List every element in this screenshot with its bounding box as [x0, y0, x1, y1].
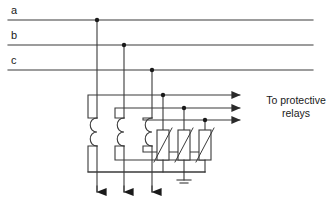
earth-ground-icon	[177, 172, 191, 183]
ct-phase-c-coil	[145, 118, 152, 146]
annotation-line-1: To protective	[253, 94, 330, 107]
node-secondary-a	[161, 93, 165, 97]
to-protective-relays-label: To protective relays	[253, 94, 330, 120]
phase-bus-group	[8, 20, 313, 70]
secondary-lead-a-path	[88, 95, 240, 118]
ct-phase-b-coil	[117, 118, 124, 146]
phase-label-b: b	[11, 30, 17, 41]
current-transformer-group	[90, 118, 152, 146]
annotation-line-2: relays	[253, 107, 330, 120]
burden-tap-group	[163, 95, 205, 130]
node-secondary-c	[203, 118, 207, 122]
node-a-bus	[95, 18, 99, 22]
secondary-lead-b-path	[115, 108, 240, 118]
node-c-bus	[150, 68, 154, 72]
ct-phase-a-coil	[90, 118, 97, 146]
ct-secondary-top-leads	[88, 95, 240, 120]
burden-resistor-c	[196, 128, 214, 172]
node-secondary-b	[182, 106, 186, 110]
node-b-bus	[122, 43, 126, 47]
phase-label-c: c	[11, 55, 17, 66]
burden-resistor-a	[154, 128, 172, 172]
load-arrow-group	[97, 186, 152, 192]
phase-label-a: a	[11, 5, 17, 16]
burden-resistor-b	[175, 128, 193, 172]
secondary-lead-c-path	[143, 118, 240, 120]
burden-resistor-group	[154, 128, 214, 172]
